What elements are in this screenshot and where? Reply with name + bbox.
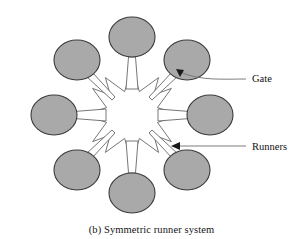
gate-channel-right (158, 109, 190, 121)
cavity-top (109, 17, 155, 57)
gate-channel-left (74, 109, 106, 121)
cavity-bottom-right (164, 150, 210, 190)
figure-caption: (b) Symmetric runner system (0, 224, 303, 235)
cavity-left (31, 95, 77, 135)
cavity-top-right (164, 40, 210, 80)
runners-label: Runners (252, 141, 287, 152)
gate-channel-bottom (126, 141, 138, 173)
gate-channel-top (126, 57, 138, 89)
gate-label: Gate (252, 73, 272, 84)
runner-system-diagram: Gate Runners (0, 0, 303, 239)
cavity-bottom (109, 173, 155, 213)
figure-symmetric-runner-system: Gate Runners (b) Symmetric runner system (0, 0, 303, 239)
cavity-bottom-left (54, 150, 100, 190)
cavity-right (187, 95, 233, 135)
cavity-top-left (54, 40, 100, 80)
